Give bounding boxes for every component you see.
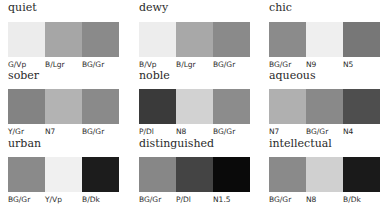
swatch-label: BG/Gr	[269, 60, 306, 69]
color-swatch	[306, 89, 343, 124]
color-swatch	[269, 89, 306, 124]
group-title: noble	[139, 70, 170, 82]
swatch-row	[139, 89, 250, 124]
group-title: dewy	[139, 2, 168, 14]
group-title: urban	[8, 138, 41, 150]
swatch-label: N5	[343, 60, 380, 69]
label-row: G/VpB/LgrBG/Gr	[8, 60, 119, 69]
swatch-label: BG/Gr	[139, 195, 176, 204]
swatch-row	[269, 157, 380, 192]
swatch-row	[8, 89, 119, 124]
swatch-label: BG/Gr	[82, 60, 119, 69]
group-title: intellectual	[269, 138, 332, 150]
color-swatch	[213, 89, 250, 124]
color-swatch	[139, 22, 176, 57]
swatch-label: N7	[269, 127, 306, 136]
swatch-label: N8	[306, 195, 343, 204]
color-swatch	[343, 157, 380, 192]
group-title: distinguished	[139, 138, 214, 150]
swatch-label: BG/Gr	[213, 60, 250, 69]
swatch-row	[139, 22, 250, 57]
swatch-label: N7	[45, 127, 82, 136]
color-swatch	[8, 89, 45, 124]
color-swatch	[343, 89, 380, 124]
swatch-label: P/Dl	[176, 195, 213, 204]
group-title: quiet	[8, 2, 37, 14]
swatch-label: N4	[343, 127, 380, 136]
color-swatch	[176, 89, 213, 124]
color-swatch	[45, 22, 82, 57]
swatch-label: Y/Vp	[45, 195, 82, 204]
color-swatch	[82, 22, 119, 57]
swatch-label: B/Dk	[343, 195, 380, 204]
swatch-label: P/Dl	[139, 127, 176, 136]
swatch-label: B/Lgr	[176, 60, 213, 69]
color-swatch	[139, 89, 176, 124]
color-swatch	[306, 157, 343, 192]
label-row: BG/GrY/VpB/Dk	[8, 195, 119, 204]
label-row: BG/GrP/DlN1.5	[139, 195, 250, 204]
swatch-label: N1.5	[213, 195, 250, 204]
label-row: BG/GrN9N5	[269, 60, 380, 69]
swatch-row	[8, 22, 119, 57]
color-swatch	[82, 89, 119, 124]
swatch-row	[139, 157, 250, 192]
color-swatch	[176, 157, 213, 192]
swatch-label: B/Dk	[82, 195, 119, 204]
swatch-row	[269, 89, 380, 124]
color-swatch	[8, 22, 45, 57]
group-title: chic	[269, 2, 292, 14]
color-swatch	[306, 22, 343, 57]
label-row: BG/GrN8B/Dk	[269, 195, 380, 204]
swatch-label: BG/Gr	[82, 127, 119, 136]
label-row: B/VpB/LgrBG/Gr	[139, 60, 250, 69]
swatch-label: BG/Gr	[306, 127, 343, 136]
swatch-row	[8, 157, 119, 192]
swatch-label: B/Lgr	[45, 60, 82, 69]
label-row: Y/GrN7BG/Gr	[8, 127, 119, 136]
color-swatch	[8, 157, 45, 192]
color-swatch	[213, 157, 250, 192]
swatch-label: BG/Gr	[213, 127, 250, 136]
swatch-row	[269, 22, 380, 57]
swatch-label: N9	[306, 60, 343, 69]
color-swatch	[213, 22, 250, 57]
color-swatch	[82, 157, 119, 192]
color-swatch	[343, 22, 380, 57]
label-row: P/DlN8BG/Gr	[139, 127, 250, 136]
color-swatch	[176, 22, 213, 57]
swatch-label: N8	[176, 127, 213, 136]
swatch-label: BG/Gr	[8, 195, 45, 204]
label-row: N7BG/GrN4	[269, 127, 380, 136]
swatch-label: G/Vp	[8, 60, 45, 69]
group-title: sober	[8, 70, 39, 82]
color-swatch	[45, 89, 82, 124]
color-swatch	[45, 157, 82, 192]
color-swatch	[269, 22, 306, 57]
color-swatch	[139, 157, 176, 192]
swatch-label: B/Vp	[139, 60, 176, 69]
group-title: aqueous	[269, 70, 316, 82]
swatch-label: Y/Gr	[8, 127, 45, 136]
color-swatch	[269, 157, 306, 192]
swatch-label: BG/Gr	[269, 195, 306, 204]
